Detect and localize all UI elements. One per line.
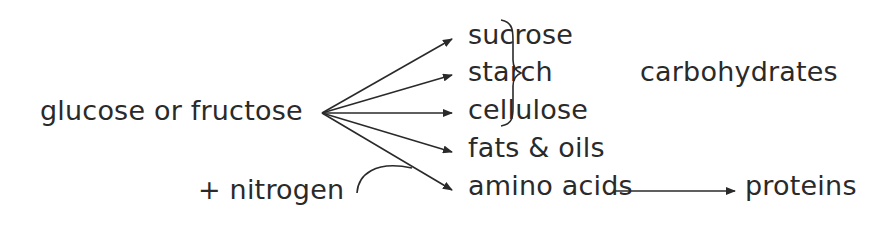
nitrogen-join-curve [357, 166, 412, 193]
arrow-to-amino [322, 113, 452, 190]
diagram-arrows [0, 0, 895, 225]
arrow-to-sucrose [322, 39, 452, 113]
arrow-to-fats [322, 113, 452, 152]
arrow-to-starch [322, 75, 452, 113]
carbohydrates-brace [501, 20, 521, 126]
